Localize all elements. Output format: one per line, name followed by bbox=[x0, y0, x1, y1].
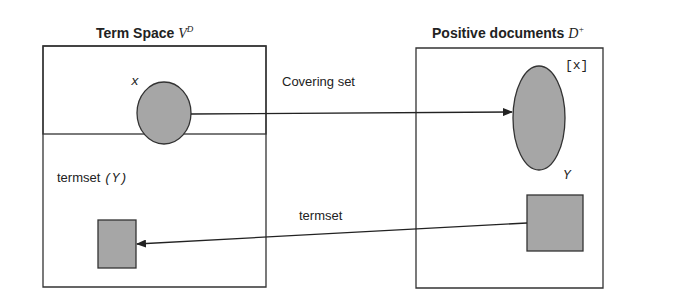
positive-documents-title: Positive documents D+ bbox=[432, 24, 584, 42]
term-space-title-text: Term Space bbox=[96, 25, 178, 41]
termset-y-label: termset (Y) bbox=[57, 170, 127, 186]
positive-documents-title-text: Positive documents bbox=[432, 25, 568, 41]
termset-arrow-label: termset bbox=[299, 208, 342, 223]
y-label: Y bbox=[563, 168, 571, 183]
covering-ellipse bbox=[513, 66, 565, 170]
document-rect bbox=[527, 195, 583, 251]
term-space-title: Term Space VD bbox=[96, 24, 193, 42]
termset-rect bbox=[98, 220, 136, 268]
diagram-canvas bbox=[0, 0, 674, 307]
termset-y-math: (Y) bbox=[104, 171, 127, 186]
bracket-x-label: [x] bbox=[565, 58, 588, 73]
covering-set-arrow bbox=[191, 112, 512, 114]
covering-set-label: Covering set bbox=[282, 74, 355, 89]
term-space-frame bbox=[43, 46, 266, 287]
positive-documents-symbol: D+ bbox=[568, 26, 584, 41]
x-label: x bbox=[131, 74, 139, 89]
term-ellipse bbox=[137, 82, 191, 144]
termset-text: termset bbox=[57, 170, 104, 185]
termset-arrow bbox=[137, 223, 527, 244]
positive-documents-frame bbox=[416, 48, 603, 288]
term-space-symbol: VD bbox=[178, 26, 193, 41]
